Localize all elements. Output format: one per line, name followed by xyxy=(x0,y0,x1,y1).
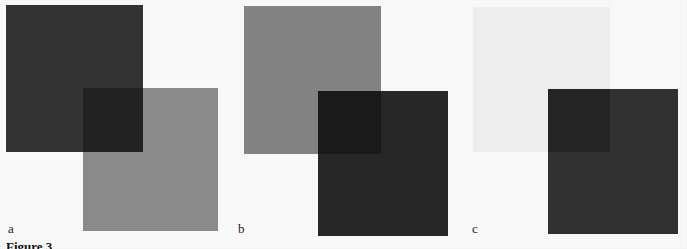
figure-caption: Figure 3 xyxy=(6,240,52,249)
panel-a-overlap-region xyxy=(83,88,143,152)
panel-b-label: b xyxy=(238,222,245,235)
panel-b-overlap-region xyxy=(318,91,381,154)
panel-c-label: c xyxy=(472,222,478,235)
panel-a-label: a xyxy=(8,222,14,235)
figure-container: a b c Figure 3 xyxy=(0,0,687,249)
panel-c-overlap-region xyxy=(548,89,610,152)
